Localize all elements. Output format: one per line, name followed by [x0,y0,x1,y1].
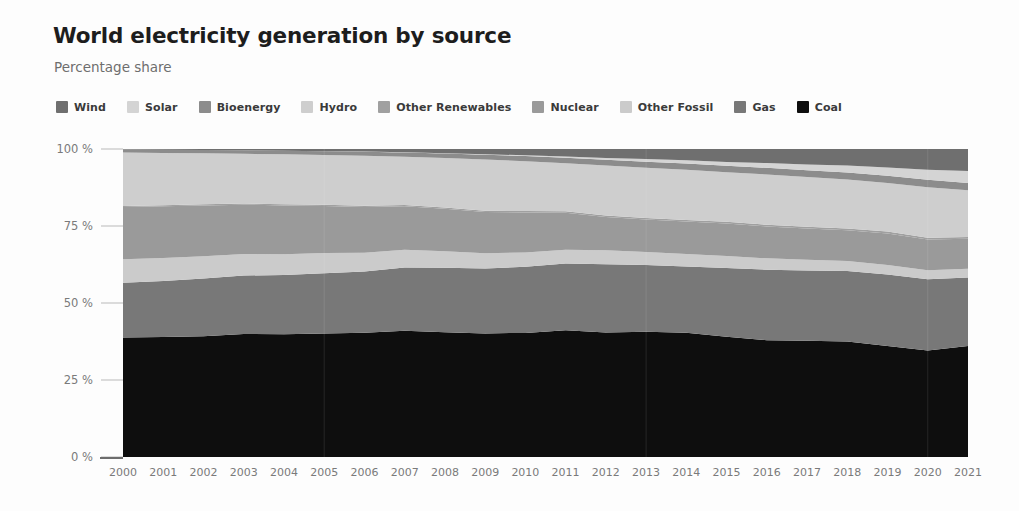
x-tick-label: 2017 [793,466,821,479]
x-tick-label: 2001 [149,466,177,479]
y-tick-label: 25 % [64,373,93,387]
x-tick-label: 2010 [511,466,539,479]
x-tick-label: 2013 [632,466,660,479]
legend-swatch-bioenergy [199,101,211,113]
x-axis: 2000200120022003200420052006200720082009… [123,466,968,488]
y-tick-label: 75 % [64,219,93,233]
y-tick-mark [101,380,123,381]
x-tick-label: 2008 [431,466,459,479]
x-tick-label: 2004 [270,466,298,479]
x-tick-label: 2005 [310,466,338,479]
legend-item-label: Other Fossil [638,101,714,114]
x-tick-label: 2014 [672,466,700,479]
legend-swatch-nuclear [532,101,544,113]
legend-item-other-renewables[interactable]: Other Renewables [378,101,511,114]
legend-swatch-other-fossil [620,101,632,113]
y-tick-mark [101,226,123,227]
legend-item-label: Solar [145,101,178,114]
x-tick-label: 2006 [350,466,378,479]
x-tick-label: 2003 [230,466,258,479]
legend-item-nuclear[interactable]: Nuclear [532,101,598,114]
legend-swatch-wind [56,101,68,113]
legend-swatch-hydro [301,101,313,113]
legend-item-hydro[interactable]: Hydro [301,101,357,114]
legend-item-label: Nuclear [550,101,598,114]
legend-item-coal[interactable]: Coal [797,101,842,114]
y-tick-mark [101,303,123,304]
legend-item-gas[interactable]: Gas [734,101,775,114]
x-tick-label: 2015 [713,466,741,479]
x-tick-label: 2012 [592,466,620,479]
stacked-area-chart [123,149,968,457]
area-series-coal[interactable] [123,330,968,457]
chart-page: World electricity generation by source P… [0,0,1019,511]
legend-item-other-fossil[interactable]: Other Fossil [620,101,714,114]
x-tick-label: 2007 [391,466,419,479]
plot-area [123,149,968,457]
y-axis: 0 %25 %50 %75 %100 % [0,140,123,466]
x-tick-label: 2016 [753,466,781,479]
legend-swatch-coal [797,101,809,113]
legend-item-wind[interactable]: Wind [56,101,106,114]
y-tick-label: 50 % [64,296,93,310]
legend-item-label: Gas [752,101,775,114]
y-tick-label: 100 % [56,142,93,156]
x-tick-label: 2009 [471,466,499,479]
chart-legend: WindSolarBioenergyHydroOther RenewablesN… [56,99,863,115]
y-axis-baseline [100,457,123,459]
x-tick-label: 2011 [552,466,580,479]
y-tick-mark [101,149,123,150]
legend-swatch-gas [734,101,746,113]
legend-item-label: Other Renewables [396,101,511,114]
legend-item-label: Hydro [319,101,357,114]
legend-item-solar[interactable]: Solar [127,101,178,114]
legend-item-label: Bioenergy [217,101,281,114]
x-tick-label: 2018 [833,466,861,479]
x-tick-label: 2000 [109,466,137,479]
legend-swatch-solar [127,101,139,113]
legend-item-label: Coal [815,101,842,114]
x-tick-label: 2020 [914,466,942,479]
legend-item-bioenergy[interactable]: Bioenergy [199,101,281,114]
chart-subtitle: Percentage share [54,59,172,75]
y-tick-label: 0 % [71,450,93,464]
legend-item-label: Wind [74,101,106,114]
x-tick-label: 2002 [189,466,217,479]
page-title: World electricity generation by source [53,23,511,48]
x-tick-label: 2021 [954,466,982,479]
x-tick-label: 2019 [874,466,902,479]
legend-swatch-other-renewables [378,101,390,113]
